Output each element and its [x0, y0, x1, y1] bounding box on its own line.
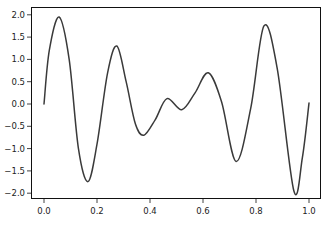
y-axis: 2.01.51.00.50.0−0.5−1.0−1.5−2.0: [4, 10, 31, 198]
y-tick-label: −2.0: [4, 188, 25, 198]
x-tick-label: 0.8: [249, 206, 263, 216]
y-tick-label: 1.0: [11, 54, 25, 64]
y-tick-label: 0.0: [11, 99, 25, 109]
y-tick-label: 0.5: [11, 77, 25, 87]
x-tick-label: 0.2: [90, 206, 104, 216]
y-tick-label: 2.0: [11, 10, 25, 20]
plot-background: [31, 7, 321, 199]
line-chart: 0.00.20.40.60.81.0 2.01.51.00.50.0−0.5−1…: [0, 0, 331, 231]
x-tick-label: 0.6: [196, 206, 210, 216]
y-tick-label: −0.5: [4, 121, 25, 131]
y-tick-label: −1.5: [4, 166, 25, 176]
x-axis: 0.00.20.40.60.81.0: [37, 199, 316, 216]
x-tick-label: 0.0: [37, 206, 51, 216]
x-tick-label: 1.0: [302, 206, 316, 216]
y-tick-label: −1.0: [4, 144, 25, 154]
x-tick-label: 0.4: [143, 206, 157, 216]
y-tick-label: 1.5: [11, 32, 25, 42]
